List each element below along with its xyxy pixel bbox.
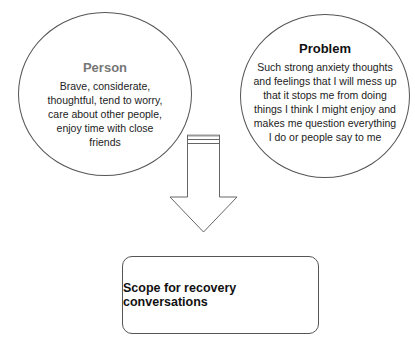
outcome-box: Scope for recovery conversations	[122, 256, 319, 334]
outcome-label: Scope for recovery conversations	[123, 281, 318, 309]
